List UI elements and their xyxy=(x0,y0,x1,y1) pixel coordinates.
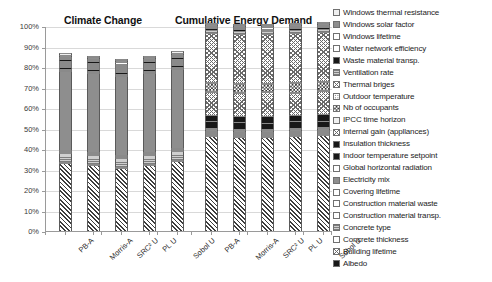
bar-segment xyxy=(115,67,128,68)
bar-segment xyxy=(289,115,302,121)
bar-cumulative_energy_demand-pl-u xyxy=(289,27,302,232)
legend-item[interactable]: Windows solar factor xyxy=(333,19,491,31)
legend-label: Windows solar factor xyxy=(343,21,414,29)
x-axis-separator-tick xyxy=(191,232,192,235)
legend-label: Construction material waste xyxy=(343,200,438,208)
bar-segment xyxy=(143,65,156,66)
legend-item[interactable]: Insulation thickness xyxy=(333,138,491,150)
legend-item[interactable]: Indoor temperature setpoint xyxy=(333,150,491,162)
bar-segment xyxy=(317,133,330,134)
bar-segment xyxy=(115,156,128,157)
bar-segment xyxy=(205,23,218,24)
bar-segment xyxy=(115,59,128,61)
bar-segment xyxy=(289,136,302,231)
bar-segment xyxy=(289,82,302,83)
y-axis-line xyxy=(45,27,46,232)
bar-segment xyxy=(233,93,246,116)
bar-segment xyxy=(233,31,246,34)
bar-segment xyxy=(233,130,246,131)
legend-item[interactable]: Global horizontal radiation xyxy=(333,162,491,174)
bar-segment xyxy=(261,136,274,137)
bar-segment xyxy=(205,92,218,115)
y-tick-label: 0% xyxy=(5,227,39,236)
bar-segment xyxy=(59,163,72,231)
bar-segment xyxy=(59,63,72,64)
bar-segment xyxy=(233,136,246,137)
legend-swatch-icon xyxy=(333,212,340,219)
bar-segment xyxy=(87,165,100,231)
legend-label: Building lifetime xyxy=(343,248,396,256)
bar-segment xyxy=(289,27,302,28)
legend-item[interactable]: Windows lifetime xyxy=(333,31,491,43)
bar-segment xyxy=(59,64,72,65)
bar-cumulative_energy_demand-sobol-u xyxy=(317,27,330,232)
bar-segment xyxy=(261,130,274,131)
y-tick-label: 10% xyxy=(5,207,39,216)
bar-segment xyxy=(171,160,184,161)
x-tick-mark xyxy=(65,232,66,235)
legend-item[interactable]: Construction material transp. xyxy=(333,210,491,222)
bar-segment xyxy=(289,133,302,134)
legend-item[interactable]: Covering lifetime xyxy=(333,186,491,198)
bar-segment xyxy=(233,84,246,92)
x-axis-separator-tick xyxy=(331,232,332,235)
legend-item[interactable]: Ventilation rate xyxy=(333,67,491,79)
legend-swatch-icon xyxy=(333,117,340,124)
legend-item[interactable]: Concrete type xyxy=(333,222,491,234)
bar-segment xyxy=(233,137,246,231)
bar-segment xyxy=(261,135,274,136)
bar-segment xyxy=(87,153,100,154)
bar-segment xyxy=(171,59,184,60)
bar-segment xyxy=(233,29,246,30)
legend-label: Ventilation rate xyxy=(343,69,394,77)
bar-segment xyxy=(171,53,184,55)
bar-segment xyxy=(289,26,302,27)
bar-segment xyxy=(143,154,156,155)
bar-segment xyxy=(233,83,246,84)
bar-segment xyxy=(143,69,156,70)
bar-segment xyxy=(87,72,100,73)
bar-segment xyxy=(87,154,100,155)
bar-segment xyxy=(233,28,246,29)
bar-segment xyxy=(317,27,330,28)
legend-swatch-icon xyxy=(333,21,340,28)
legend-item[interactable]: IPCC time horizon xyxy=(333,114,491,126)
legend-swatch-icon xyxy=(333,45,340,52)
legend-item[interactable]: Electricity mix xyxy=(333,174,491,186)
legend-item[interactable]: Water network efficiency xyxy=(333,43,491,55)
legend-item[interactable]: Construction material waste xyxy=(333,198,491,210)
bar-segment xyxy=(289,134,302,135)
x-axis-separator-tick xyxy=(247,232,248,235)
bar-segment xyxy=(59,152,72,153)
bar-segment xyxy=(87,69,100,70)
legend-item[interactable]: Concrete thickness xyxy=(333,234,491,246)
legend-item[interactable]: Nb of occupants xyxy=(333,103,491,115)
y-tick-label: 60% xyxy=(5,104,39,113)
stacked-bar-chart: Climate Change Cumulative Energy Demand … xyxy=(0,0,492,282)
x-tick-mark xyxy=(239,232,240,235)
bar-segment xyxy=(143,71,156,72)
legend-item[interactable]: Albedo xyxy=(333,258,491,270)
bar-segment xyxy=(115,167,128,168)
legend-item[interactable]: Windows thermal resistance xyxy=(333,7,491,19)
legend-item[interactable]: Waste material transp. xyxy=(333,55,491,67)
bar-segment xyxy=(233,25,246,27)
bar-segment xyxy=(317,22,330,23)
legend-item[interactable]: Internal gain (appllances) xyxy=(333,126,491,138)
panel-title-climate-change: Climate Change xyxy=(64,14,142,26)
bar-segment xyxy=(317,91,330,114)
bar-segment xyxy=(261,137,274,231)
legend-label: Waste material transp. xyxy=(343,57,419,65)
legend-item[interactable]: Outdoor temperature xyxy=(333,91,491,103)
legend-swatch-icon xyxy=(333,248,340,255)
bar-segment xyxy=(171,150,184,151)
legend-label: Windows lifetime xyxy=(343,33,401,41)
legend-item[interactable]: Building lifetime xyxy=(333,246,491,258)
plot-area: 100%90%80%70%60%50%40%30%20%10%0% xyxy=(45,27,332,232)
legend-item[interactable]: Thermal briges xyxy=(333,79,491,91)
bar-climate_change-pb-a xyxy=(59,27,72,232)
bar-segment xyxy=(59,65,72,66)
bar-segment xyxy=(205,33,218,82)
bar-segment xyxy=(115,168,128,231)
bar-segment xyxy=(261,29,274,30)
